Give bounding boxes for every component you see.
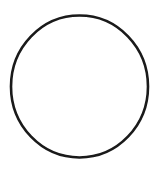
circle-figure [0, 0, 157, 175]
circle-outline-icon [11, 16, 148, 158]
canvas [0, 0, 157, 175]
